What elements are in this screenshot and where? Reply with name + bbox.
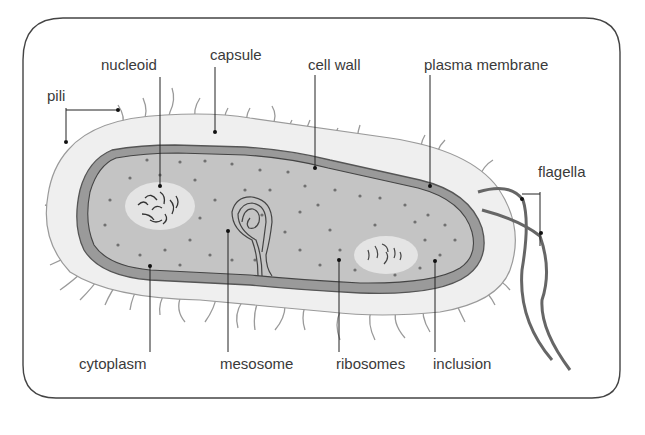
label-mesosome: mesosome [220, 356, 293, 371]
label-capsule: capsule [210, 47, 262, 62]
label-nucleoid: nucleoid [101, 57, 157, 72]
inclusion-body [354, 236, 418, 274]
label-flagella: flagella [538, 164, 586, 179]
label-plasma-membrane: plasma membrane [424, 57, 548, 72]
label-ribosomes: ribosomes [336, 356, 405, 371]
label-cytoplasm: cytoplasm [79, 356, 147, 371]
label-cell-wall: cell wall [308, 57, 361, 72]
label-inclusion: inclusion [433, 356, 491, 371]
label-pili: pili [47, 88, 65, 103]
nucleoid-region [125, 182, 195, 230]
bacterial-cell-diagram: nucleoid capsule cell wall plasma membra… [0, 0, 645, 435]
